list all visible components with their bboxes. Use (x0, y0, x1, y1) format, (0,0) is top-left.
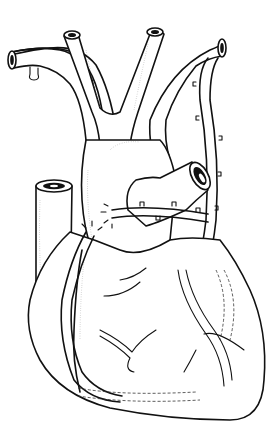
heart-diagram (0, 0, 279, 448)
heart-illustration (0, 0, 279, 448)
ventricles (28, 232, 264, 420)
